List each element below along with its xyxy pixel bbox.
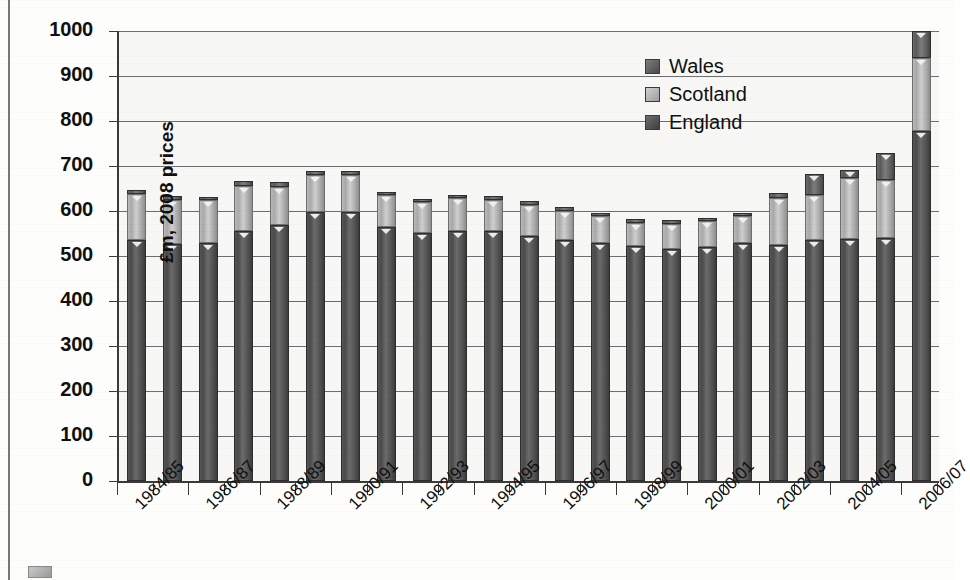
scan-texture: [0, 35, 955, 36]
scan-texture: [0, 518, 955, 519]
scan-texture: [0, 21, 955, 22]
scan-texture: [0, 84, 955, 85]
scan-texture: [0, 7, 955, 8]
scan-texture: [0, 462, 955, 463]
scan-texture: [0, 280, 955, 281]
scan-texture: [0, 448, 955, 449]
scan-texture: [0, 469, 955, 470]
scan-texture: [0, 413, 955, 414]
segment-highlight-icon: [203, 245, 213, 250]
scan-texture: [0, 420, 955, 421]
scan-texture: [0, 210, 955, 211]
scan-texture: [0, 105, 955, 106]
scan-texture: [0, 161, 955, 162]
scan-texture: [0, 357, 955, 358]
bar-segment-wales: [591, 213, 610, 217]
bar-segment-england: [805, 240, 824, 481]
segment-highlight-icon: [595, 245, 605, 250]
x-tick-8: [402, 483, 403, 495]
y-tick-300: [109, 346, 119, 347]
scan-texture: [0, 182, 955, 183]
scan-texture: [0, 28, 955, 29]
y-tick-label-0: 0: [21, 468, 93, 491]
scan-texture: [0, 329, 955, 330]
segment-highlight-icon: [417, 204, 427, 209]
scan-texture: [0, 322, 955, 323]
y-axis-title: £m, 2008 prices: [156, 72, 178, 312]
scan-texture: [0, 350, 955, 351]
bar-segment-england: [733, 243, 752, 482]
bar-segment-wales: [805, 174, 824, 196]
legend-swatch-wales-icon: [645, 59, 660, 74]
scan-texture: [0, 483, 955, 484]
scan-texture: [0, 364, 955, 365]
bar-segment-wales: [413, 199, 432, 203]
x-axis-tick-labels: 1984/851986/871988/891990/911992/931994/…: [0, 0, 955, 100]
legend-label-wales: Wales: [669, 55, 724, 78]
scan-texture: [0, 511, 955, 512]
segment-highlight-icon: [738, 218, 748, 223]
scan-texture: [0, 560, 955, 561]
scan-texture: [0, 168, 955, 169]
x-tick-10: [474, 483, 475, 495]
segment-highlight-icon: [881, 155, 891, 160]
bar-segment-wales: [199, 197, 218, 201]
x-tick-20: [830, 483, 831, 495]
bar-segment-scotland: [840, 178, 859, 239]
scan-texture: [0, 70, 955, 71]
bar-segment-england: [270, 225, 289, 482]
scan-texture: [0, 490, 955, 491]
scan-texture: [0, 308, 955, 309]
bar-segment-wales: [127, 190, 146, 194]
x-tick-6: [331, 483, 332, 495]
legend-label-england: England: [669, 111, 742, 134]
scan-texture: [0, 273, 955, 274]
y-tick-0: [109, 481, 119, 482]
legend-label-scotland: Scotland: [669, 83, 747, 106]
y-tick-500: [109, 256, 119, 257]
scan-texture: [0, 287, 955, 288]
scan-texture: [0, 245, 955, 246]
segment-highlight-icon: [809, 176, 819, 181]
y-tick-label-700: 700: [21, 153, 93, 176]
scan-texture: [0, 63, 955, 64]
scan-texture: [0, 532, 955, 533]
scan-texture: [0, 49, 955, 50]
x-tick-14: [616, 483, 617, 495]
y-tick-100: [109, 436, 119, 437]
scan-texture: [0, 217, 955, 218]
scan-texture: [0, 196, 955, 197]
scan-texture: [0, 441, 955, 442]
scan-texture: [0, 385, 955, 386]
scan-texture: [0, 126, 955, 127]
bar-segment-scotland: [555, 211, 574, 240]
scan-texture: [0, 378, 955, 379]
scan-texture: [0, 203, 955, 204]
bar-segment-wales: [377, 192, 396, 196]
scan-texture: [0, 525, 955, 526]
bar-segment-england: [555, 240, 574, 481]
scan-texture: [0, 553, 955, 554]
bar-segment-england: [377, 227, 396, 481]
scan-texture: [0, 56, 955, 57]
segment-highlight-icon: [809, 197, 819, 202]
scan-texture: [0, 406, 955, 407]
bar-segment-scotland: [484, 200, 503, 231]
bar-segment-england: [876, 238, 895, 481]
scan-texture: [0, 112, 955, 113]
bar-segment-england: [234, 231, 253, 481]
chart-legend: Wales Scotland England: [645, 52, 795, 136]
scan-texture: [0, 546, 955, 547]
scan-texture: [0, 42, 955, 43]
scan-texture: [0, 504, 955, 505]
x-tick-0: [117, 483, 118, 495]
segment-highlight-icon: [381, 197, 391, 202]
scan-texture: [0, 175, 955, 176]
y-tick-label-200: 200: [21, 378, 93, 401]
scan-texture: [0, 140, 955, 141]
y-tick-700: [109, 166, 119, 167]
scan-texture: [0, 91, 955, 92]
scan-texture: [0, 259, 955, 260]
scan-texture: [0, 189, 955, 190]
